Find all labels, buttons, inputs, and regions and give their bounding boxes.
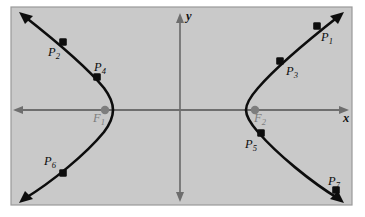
- point-p1-subscript: 1: [329, 36, 333, 46]
- point-p3-label: P3: [286, 65, 298, 78]
- point-p4-subscript: 4: [102, 66, 106, 76]
- point-p2-marker: [59, 38, 67, 46]
- focus-f2-label: F2: [254, 112, 266, 125]
- point-p3-marker: [276, 57, 284, 65]
- figure-canvas: [0, 0, 365, 217]
- point-p5-label: P5: [245, 138, 257, 151]
- point-p6-marker: [59, 169, 67, 177]
- x-axis-label: x: [343, 112, 349, 125]
- y-axis-label: y: [186, 10, 192, 23]
- point-p1-marker: [313, 22, 321, 30]
- point-p5-subscript: 5: [253, 143, 257, 153]
- focus-f1-subscript: 1: [101, 117, 105, 127]
- point-p7-subscript: 7: [336, 180, 340, 190]
- point-p3-subscript: 3: [294, 70, 298, 80]
- point-p5-marker: [257, 129, 265, 137]
- point-p2-label: P2: [48, 46, 60, 59]
- point-p2-subscript: 2: [56, 51, 60, 61]
- point-p4-marker: [93, 73, 101, 81]
- point-p6-subscript: 6: [52, 160, 56, 170]
- point-p1-label: P1: [321, 31, 333, 44]
- point-p6-label: P6: [44, 155, 56, 168]
- focus-f2-subscript: 2: [262, 117, 266, 127]
- focus-f1-label: F1: [93, 112, 105, 125]
- point-p4-label: P4: [94, 61, 106, 74]
- hyperbola-figure: x y F1 F2 P1 P2 P3 P4 P5 P6 P7: [0, 0, 365, 217]
- point-p7-label: P7: [328, 175, 340, 188]
